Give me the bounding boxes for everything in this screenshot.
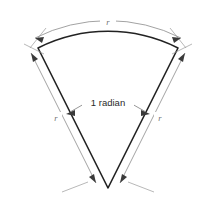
- sector-diagram-figure: r r r 1 radian: [0, 0, 214, 207]
- left-radius-arrow-top: [31, 53, 38, 62]
- central-angle-label: 1 radian: [91, 97, 125, 108]
- left-radius-arrow-bottom: [89, 174, 96, 183]
- right-radius-arrow-top: [178, 53, 185, 62]
- right-radius-extension-bottom: [128, 182, 154, 192]
- left-radius-extension-bottom: [62, 182, 88, 192]
- right-radius-arrow-bottom: [120, 174, 127, 183]
- sector-diagram-canvas: r r r 1 radian: [0, 0, 214, 207]
